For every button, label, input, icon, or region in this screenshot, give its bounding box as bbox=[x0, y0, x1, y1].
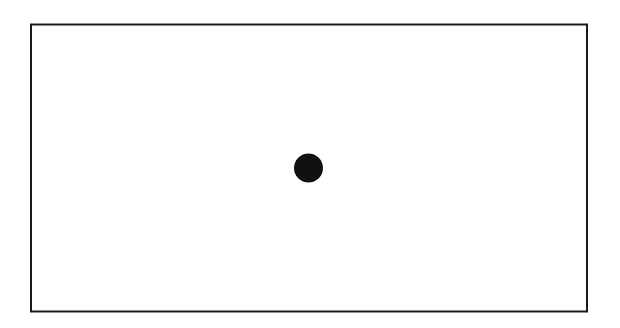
diagram-canvas bbox=[0, 0, 620, 328]
center-dot bbox=[294, 154, 323, 183]
